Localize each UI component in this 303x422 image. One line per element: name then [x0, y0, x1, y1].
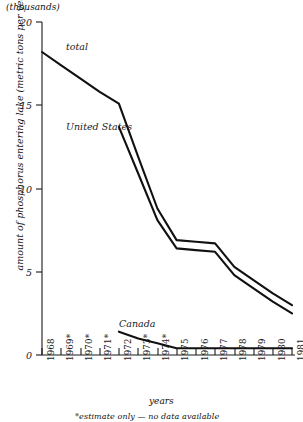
y-axis-ticks — [36, 22, 42, 355]
series-line-canada — [119, 332, 292, 349]
chart-figure: (thousands) amount of phosphorus enterin… — [0, 0, 303, 422]
series-line-total — [42, 52, 292, 305]
series-line-united-states — [119, 127, 292, 314]
plot-area — [0, 0, 303, 422]
